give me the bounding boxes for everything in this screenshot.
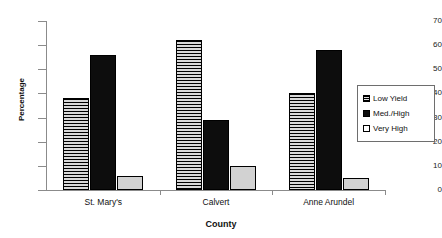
x-axis-title: County (0, 219, 442, 229)
bar-st-mary-s-very-high[interactable] (117, 176, 143, 190)
y-tick-40 (38, 93, 46, 94)
y-tick-60 (38, 45, 46, 46)
y-tick-10 (38, 166, 46, 167)
bar-st-mary-s-low-yield[interactable] (63, 98, 89, 190)
legend-label-med-high: Med./High (373, 109, 409, 118)
legend-swatch-med-high-icon (363, 110, 370, 117)
x-axis-label-anne-arundel: Anne Arundel (272, 197, 385, 207)
x-axis-line (46, 190, 385, 191)
legend-label-very-high: Very High (373, 124, 408, 133)
x-tick-1 (160, 190, 161, 195)
bar-anne-arundel-very-high[interactable] (343, 178, 369, 190)
y-tick-20 (38, 142, 46, 143)
bar-calvert-very-high[interactable] (230, 166, 256, 190)
bar-anne-arundel-med-high[interactable] (316, 50, 342, 190)
x-tick-end (385, 190, 386, 195)
bar-calvert-low-yield[interactable] (176, 40, 202, 190)
legend-swatch-low-yield-icon (363, 95, 370, 102)
chart-legend: Low Yield Med./High Very High (357, 85, 435, 142)
y-tick-label-0: 0 (408, 186, 442, 194)
legend-item-med-high[interactable]: Med./High (363, 106, 429, 121)
bar-calvert-med-high[interactable] (203, 120, 229, 190)
x-axis-label-calvert: Calvert (160, 197, 273, 207)
legend-swatch-very-high-icon (363, 125, 370, 132)
plot-area (47, 21, 385, 190)
bar-st-mary-s-med-high[interactable] (90, 55, 116, 190)
y-tick-50 (38, 69, 46, 70)
x-axis-label-st-mary-s: St. Mary's (47, 197, 160, 207)
legend-item-low-yield[interactable]: Low Yield (363, 91, 429, 106)
y-tick-30 (38, 118, 46, 119)
bar-chart: Percentage 010203040506070 St. Mary'sCal… (0, 0, 442, 238)
y-tick-label-60: 60 (408, 41, 442, 49)
y-tick-label-10: 10 (408, 162, 442, 170)
bar-anne-arundel-low-yield[interactable] (289, 93, 315, 190)
y-axis-title: Percentage (17, 55, 26, 145)
legend-item-very-high[interactable]: Very High (363, 121, 429, 136)
y-tick-70 (38, 21, 46, 22)
y-tick-label-70: 70 (408, 17, 442, 25)
y-tick-0 (38, 190, 46, 191)
y-tick-label-50: 50 (408, 65, 442, 73)
x-tick-2 (272, 190, 273, 195)
legend-label-low-yield: Low Yield (373, 94, 407, 103)
